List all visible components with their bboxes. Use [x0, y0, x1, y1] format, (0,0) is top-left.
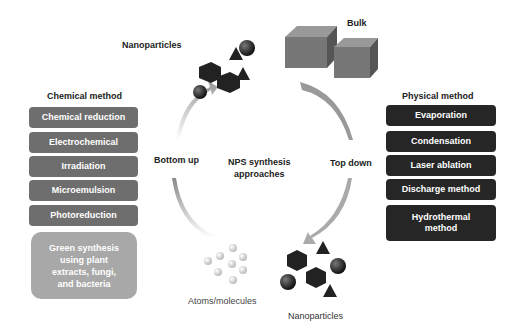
- arrow-top-down-lower: [303, 178, 352, 244]
- physical-item: Laser ablation: [386, 155, 496, 176]
- physical-item: Discharge method: [386, 179, 496, 200]
- nanoparticles-bottom-shapes: [280, 241, 346, 297]
- chemical-item: Microemulsion: [29, 180, 138, 201]
- bottom-up-label: Bottom up: [154, 155, 199, 165]
- nanoparticles-top-label: Nanoparticles: [122, 40, 182, 50]
- atoms-shapes: [204, 244, 247, 284]
- nanoparticles-bottom-label: Nanoparticles: [288, 311, 343, 321]
- hydrothermal-line: method: [425, 223, 458, 234]
- chemical-item: Chemical reduction: [29, 107, 138, 128]
- bulk-label: Bulk: [347, 18, 367, 28]
- nanoparticles-top-shapes: [193, 40, 255, 99]
- top-down-label: Top down: [330, 158, 372, 168]
- green-line: Green synthesis: [49, 242, 119, 254]
- hydrothermal-line: Hydrothermal: [412, 212, 471, 223]
- atoms-label: Atoms/molecules: [188, 296, 257, 306]
- arrow-bottom-up-lower: [172, 178, 214, 238]
- chemical-method-heading: Chemical method: [47, 91, 122, 101]
- chemical-item: Photoreduction: [29, 205, 138, 226]
- green-line: and bacteria: [57, 278, 110, 290]
- center-title-line1: NPS synthesis: [228, 156, 291, 168]
- green-synthesis-box: Green synthesis using plant extracts, fu…: [31, 232, 137, 299]
- center-title: NPS synthesis approaches: [228, 156, 291, 180]
- arrow-top-down-upper: [300, 82, 353, 140]
- center-title-line2: approaches: [228, 168, 291, 180]
- physical-item: Evaporation: [386, 105, 496, 126]
- bulk-cubes: [285, 26, 378, 78]
- green-line: extracts, fungi,: [52, 266, 116, 278]
- physical-method-heading: Physical method: [402, 91, 474, 101]
- physical-item: Condensation: [386, 131, 496, 152]
- physical-item-hydrothermal: Hydrothermal method: [386, 205, 496, 241]
- chemical-item: Electrochemical: [29, 132, 138, 153]
- green-line: using plant: [60, 254, 108, 266]
- chemical-item: Irradiation: [29, 156, 138, 177]
